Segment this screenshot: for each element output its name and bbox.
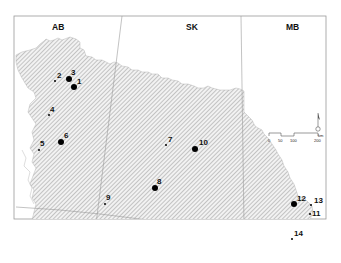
site-label-8: 8 (157, 177, 162, 186)
site-marker-2[interactable] (54, 80, 56, 82)
site-label-10: 10 (199, 138, 208, 147)
scale-tick-100: 100 (290, 138, 297, 143)
scale-unit: km (318, 133, 324, 138)
site-label-13: 13 (314, 196, 323, 205)
site-marker-9[interactable] (104, 203, 106, 205)
site-label-7: 7 (168, 135, 173, 144)
region-label-mb: MB (286, 22, 299, 32)
site-marker-11[interactable] (309, 213, 311, 215)
site-label-3: 3 (71, 68, 76, 77)
site-label-14: 14 (294, 229, 303, 238)
site-label-4: 4 (50, 105, 55, 114)
site-label-11: 11 (312, 209, 321, 218)
site-marker-7[interactable] (165, 144, 167, 146)
site-marker-14[interactable] (291, 238, 293, 240)
site-label-12: 12 (297, 194, 306, 203)
scale-tick-50: 50 (278, 138, 283, 143)
site-marker-5[interactable] (38, 149, 40, 151)
scale-tick-200: 200 (314, 138, 321, 143)
site-label-1: 1 (77, 77, 82, 86)
site-label-2: 2 (57, 71, 62, 80)
site-marker-10[interactable] (192, 146, 198, 152)
site-label-6: 6 (64, 131, 69, 140)
site-marker-4[interactable] (48, 114, 50, 116)
site-label-5: 5 (40, 139, 45, 148)
region-label-sk: SK (186, 22, 199, 32)
region-label-ab: AB (52, 22, 64, 32)
study-area-map: AB SK MB 1 2 3 4 5 6 7 8 9 10 11 12 13 1… (0, 0, 341, 263)
site-label-9: 9 (106, 193, 111, 202)
site-marker-13[interactable] (310, 204, 312, 206)
